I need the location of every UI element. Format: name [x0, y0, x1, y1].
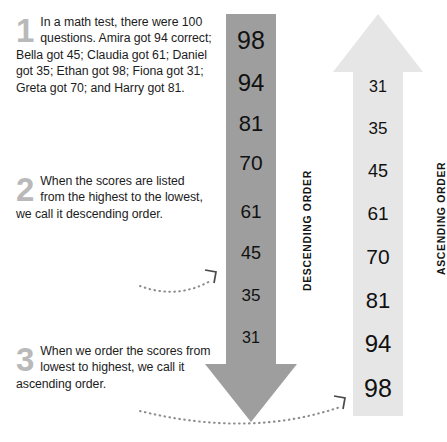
descending-value-1: 94 — [226, 69, 276, 97]
descending-arrow-shaft — [226, 14, 276, 366]
step-number-1: 1 — [16, 16, 34, 46]
descending-order-label: DESCENDING ORDER — [302, 170, 313, 291]
instruction-paragraph-2-text: When the scores are listed from the high… — [16, 174, 203, 221]
instruction-paragraph-2: 2When the scores are listed from the hig… — [16, 173, 212, 222]
instruction-paragraph-1: 1In a math test, there were 100 question… — [16, 14, 212, 96]
descending-value-0: 98 — [226, 26, 276, 55]
ascending-value-3: 61 — [353, 203, 403, 225]
instruction-paragraph-3-text: When we order the scores from lowest to … — [16, 344, 210, 391]
descending-value-2: 81 — [226, 111, 276, 137]
ascending-value-6: 94 — [353, 330, 403, 358]
descending-value-4: 61 — [226, 201, 276, 223]
ascending-value-4: 70 — [353, 245, 403, 269]
descending-value-6: 35 — [226, 286, 276, 306]
descending-value-3: 70 — [226, 151, 276, 175]
instruction-text-column: 1In a math test, there were 100 question… — [0, 0, 215, 442]
ascending-arrow-head-icon — [333, 14, 423, 72]
step-number-2: 2 — [16, 175, 34, 205]
worksheet-page: 1In a math test, there were 100 question… — [0, 0, 447, 442]
ascending-order-label: ASCENDING ORDER — [436, 162, 447, 275]
descending-value-5: 45 — [226, 243, 276, 264]
ascending-value-7: 98 — [353, 374, 403, 403]
instruction-paragraph-3: 3When we order the scores from lowest to… — [16, 343, 212, 392]
ascending-value-5: 81 — [353, 288, 403, 314]
descending-value-7: 31 — [226, 329, 276, 347]
instruction-paragraph-1-text: In a math test, there were 100 questions… — [16, 15, 212, 95]
ascending-value-0: 31 — [353, 78, 403, 96]
step-number-3: 3 — [16, 345, 34, 375]
descending-arrow-head-icon — [205, 364, 297, 422]
descending-order-arrow: 98 94 81 70 61 45 35 31 — [205, 14, 297, 422]
ascending-order-arrow: 31 35 45 61 70 81 94 98 — [333, 14, 425, 418]
ascending-value-2: 45 — [353, 161, 403, 182]
ascending-value-1: 35 — [353, 119, 403, 139]
